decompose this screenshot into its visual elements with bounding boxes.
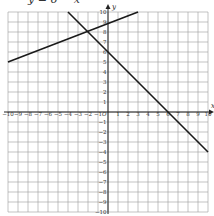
x-tick-label: −10 (2, 111, 14, 117)
y-tick-label: −1 (98, 119, 106, 125)
y-tick-label: 8 (103, 29, 107, 35)
x-tick-label: 5 (156, 111, 160, 117)
y-tick-label: −7 (98, 179, 107, 185)
y-tick-label: 2 (103, 89, 107, 95)
y-tick-label: 1 (103, 99, 107, 105)
y-tick-label: −10 (95, 209, 107, 215)
equation-caption: y = 6 − x (28, 0, 80, 6)
x-tick-label: 10 (205, 111, 212, 117)
x-tick-label: −3 (74, 111, 83, 117)
y-axis-arrow-icon (106, 4, 111, 9)
x-tick-label: −1 (94, 111, 102, 117)
y-tick-label: 5 (103, 59, 107, 65)
y-tick-label: 3 (103, 79, 107, 85)
x-tick-label: 7 (176, 111, 180, 117)
y-axis-label: y (111, 3, 117, 11)
x-tick-label: −2 (84, 111, 92, 117)
x-tick-label: −5 (54, 111, 63, 117)
y-tick-label: −9 (98, 199, 107, 205)
y-tick-label: 4 (103, 69, 107, 75)
x-axis-label: x (211, 102, 214, 110)
x-tick-label: 9 (196, 111, 200, 117)
x-tick-label: 3 (136, 111, 140, 117)
x-tick-label: 2 (126, 111, 130, 117)
x-tick-label: −4 (64, 111, 73, 117)
x-tick-label: 8 (186, 111, 190, 117)
origin-label: O (102, 111, 107, 117)
y-tick-label: −4 (98, 149, 107, 155)
y-tick-label: −3 (98, 139, 107, 145)
graph-canvas: xy−10−9−8−7−6−5−4−3−2−112345678910−10−9−… (0, 0, 214, 216)
x-tick-label: 1 (116, 111, 120, 117)
y-tick-label: −8 (98, 189, 107, 195)
y-tick-label: 10 (100, 9, 107, 15)
x-tick-label: −9 (14, 111, 23, 117)
x-tick-label: −6 (44, 111, 53, 117)
y-tick-label: 7 (103, 39, 107, 45)
coordinate-graph: y = 6 − x xy−10−9−8−7−6−5−4−3−2−11234567… (0, 0, 214, 216)
y-tick-label: −2 (98, 129, 106, 135)
x-tick-label: −7 (34, 111, 43, 117)
line-1 (8, 12, 138, 62)
x-tick-label: 4 (146, 111, 150, 117)
y-tick-label: −5 (98, 159, 107, 165)
y-tick-label: −6 (98, 169, 107, 175)
x-tick-label: −8 (24, 111, 33, 117)
